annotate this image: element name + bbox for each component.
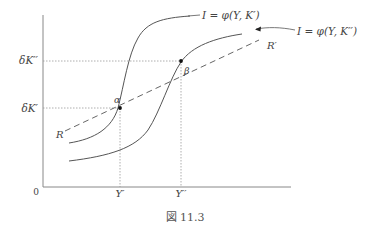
label-arrow-K2 xyxy=(256,28,295,30)
label-R: R xyxy=(55,129,64,140)
investment-curve-K2 xyxy=(69,34,242,161)
label-Y2: Y′′ xyxy=(175,188,187,199)
label-curve-K1: I = φ(Y, K′) xyxy=(201,9,260,21)
label-origin: 0 xyxy=(33,187,39,197)
arrowhead-icon xyxy=(255,27,261,32)
point-alpha xyxy=(118,106,122,110)
label-alpha: α xyxy=(114,94,121,105)
label-curve-K2: I = φ(Y, K′′) xyxy=(296,25,357,37)
label-dK2: δK′′ xyxy=(19,54,39,66)
label-beta: β xyxy=(183,65,190,76)
label-dK1: δK′ xyxy=(21,102,38,114)
label-Y1: Y′ xyxy=(116,188,126,199)
diagram-canvas: δK′′ δK′ 0 Y′ Y′′ I = φ(Y, K′) I = φ(Y, … xyxy=(0,0,370,228)
label-leader-K1 xyxy=(188,15,200,16)
figure-caption: 図 11.3 xyxy=(166,211,205,224)
point-beta xyxy=(179,59,183,63)
label-Rprime: R′ xyxy=(266,40,278,51)
line-R-Rprime xyxy=(65,40,259,131)
